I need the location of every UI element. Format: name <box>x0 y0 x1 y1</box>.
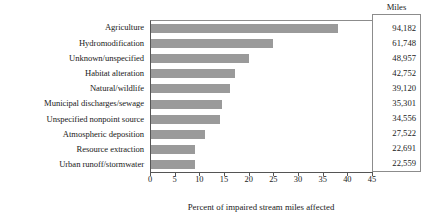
bar-row <box>151 81 372 96</box>
x-axis-tick-label: 20 <box>244 176 252 184</box>
category-label: Hydromodification <box>0 35 147 50</box>
bar <box>151 54 249 63</box>
miles-value: 42,752 <box>373 66 420 81</box>
x-axis-line <box>150 172 372 173</box>
category-label: Atmospheric deposition <box>0 126 147 141</box>
x-axis-tick-label: 15 <box>220 176 228 184</box>
category-label: Municipal discharges/sewage <box>0 96 147 111</box>
bar <box>151 115 220 124</box>
category-label: Resource extraction <box>0 142 147 157</box>
bar-series <box>151 21 372 172</box>
bar-chart-figure: Agriculture Hydromodification Unknown/un… <box>0 0 429 222</box>
x-axis-tick-label: 30 <box>294 176 302 184</box>
x-axis-tick-label: 35 <box>318 176 326 184</box>
bar <box>151 24 338 33</box>
bar-row <box>151 96 372 111</box>
category-label: Unspecified nonpoint source <box>0 111 147 126</box>
miles-value: 61,748 <box>373 36 420 51</box>
miles-value: 39,120 <box>373 81 420 96</box>
bar-row <box>151 66 372 81</box>
miles-value: 22,691 <box>373 141 420 156</box>
bar <box>151 130 205 139</box>
bar-row <box>151 112 372 127</box>
miles-value: 22,559 <box>373 156 420 171</box>
bar-row <box>151 127 372 142</box>
bar-row <box>151 21 372 36</box>
bar-row <box>151 157 372 172</box>
x-axis-tick-label: 10 <box>195 176 203 184</box>
category-axis-labels: Agriculture Hydromodification Unknown/un… <box>0 20 147 172</box>
category-label: Urban runoff/stormwater <box>0 157 147 172</box>
bar-row <box>151 36 372 51</box>
bar-row <box>151 142 372 157</box>
x-axis-tick-label: 0 <box>148 176 152 184</box>
plot-area <box>150 20 372 172</box>
category-label: Natural/wildlife <box>0 81 147 96</box>
x-axis-tick-label: 25 <box>269 176 277 184</box>
bar <box>151 160 195 169</box>
bar <box>151 69 235 78</box>
category-label: Habitat alteration <box>0 66 147 81</box>
category-label: Agriculture <box>0 20 147 35</box>
bar <box>151 145 195 154</box>
miles-value: 94,182 <box>373 21 420 36</box>
x-axis-tick-label: 45 <box>368 176 376 184</box>
bar <box>151 39 273 48</box>
miles-value: 34,556 <box>373 111 420 126</box>
x-axis-title: Percent of impaired stream miles affecte… <box>150 203 372 212</box>
miles-table: 94,182 61,748 48,957 42,752 39,120 35,30… <box>372 14 421 172</box>
bar <box>151 100 222 109</box>
miles-value: 48,957 <box>373 51 420 66</box>
bar-row <box>151 51 372 66</box>
miles-value: 35,301 <box>373 96 420 111</box>
miles-column-header: Miles <box>372 3 421 12</box>
x-axis-tick-label: 40 <box>343 176 351 184</box>
category-label: Unknown/unspecified <box>0 50 147 65</box>
miles-value: 27,522 <box>373 126 420 141</box>
x-axis-tick-label: 5 <box>173 176 177 184</box>
bar <box>151 84 230 93</box>
